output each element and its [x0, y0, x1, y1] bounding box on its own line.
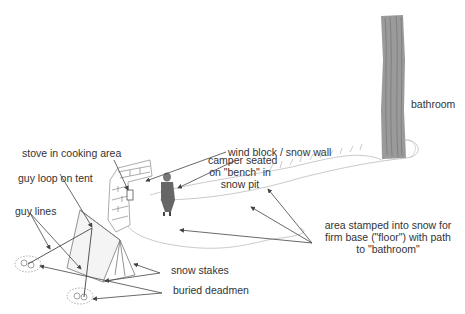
tree-icon — [381, 15, 415, 159]
label-buried-deadmen: buried deadmen — [173, 284, 249, 296]
label-stamped-area: area stamped into snow for firm base ("f… — [313, 219, 463, 255]
camper-icon — [161, 173, 175, 217]
label-area-line2: firm base ("floor") with path — [313, 231, 463, 243]
label-stove: stove in cooking area — [22, 147, 121, 159]
label-snow-stakes: snow stakes — [171, 264, 229, 276]
label-camper-line2: on "bench" in — [208, 166, 272, 178]
label-bathroom: bathroom — [411, 98, 455, 110]
label-area-line3: to "bathroom" — [313, 243, 463, 255]
label-area-line1: area stamped into snow for — [313, 219, 463, 231]
stove-icon — [127, 190, 133, 200]
label-camper-line3: snow pit — [208, 178, 272, 190]
label-camper-line1: camper seated — [208, 154, 272, 166]
label-guy-loop: guy loop on tent — [18, 172, 93, 184]
label-camper: camper seated on "bench" in snow pit — [208, 154, 272, 190]
label-guy-lines: guy lines — [15, 205, 56, 217]
